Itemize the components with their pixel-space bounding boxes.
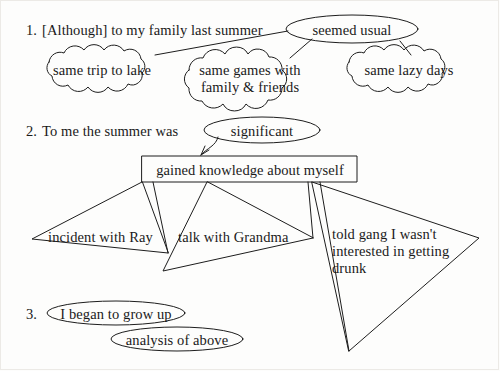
oval-label-seemed-usual: seemed usual	[287, 22, 417, 39]
cloud-label-same-trip-to-lake: same trip to lake	[37, 62, 167, 79]
section-1-number: 1.	[26, 22, 37, 39]
oval-label-analysis-of-above: analysis of above	[115, 332, 239, 349]
section-3-number: 3.	[26, 306, 37, 323]
section-1-stem: [Although] to my family last summer	[42, 22, 263, 39]
cloud-label-same-lazy-days: same lazy days	[348, 62, 470, 79]
oval-label-i-began-to-grow-up: I began to grow up	[51, 306, 181, 323]
diagram-canvas: 1. [Although] to my family last summer s…	[0, 0, 500, 371]
connector-seemed-usual-to-cloud-2	[290, 39, 312, 58]
connector-box-to-triangle-b	[308, 182, 313, 238]
branch-label-talk-with-grandma: talk with Grandma	[178, 229, 288, 246]
cloud-label-same-games: same games with family & friends	[192, 62, 308, 96]
triangle-talk-with-grandma	[163, 182, 313, 271]
branch-label-incident-with-ray: incident with Ray	[48, 229, 153, 246]
branch-label-told-gang: told gang I wasn't interested in getting…	[332, 226, 449, 277]
box-label-gained-knowledge: gained knowledge about myself	[150, 162, 350, 179]
section-2-stem: To me the summer was	[42, 123, 178, 140]
oval-label-significant: significant	[212, 123, 312, 140]
section-2-number: 2.	[26, 123, 37, 140]
